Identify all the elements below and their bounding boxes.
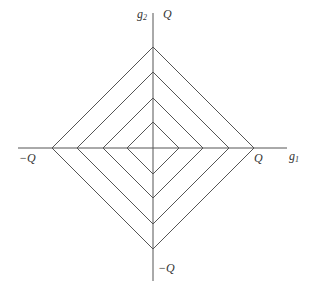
g1-axis-label: g1 <box>289 150 299 164</box>
bottom-neg-q-label: −Q <box>158 262 175 274</box>
right-q-label: Q <box>254 152 263 164</box>
top-q-label: Q <box>163 8 172 20</box>
diamond-diagram <box>0 0 312 295</box>
g2-label-sub: 2 <box>143 13 147 22</box>
g1-label-sub: 1 <box>295 155 299 164</box>
g2-axis-label: g2 <box>137 8 147 22</box>
left-neg-q-label: −Q <box>19 152 36 164</box>
